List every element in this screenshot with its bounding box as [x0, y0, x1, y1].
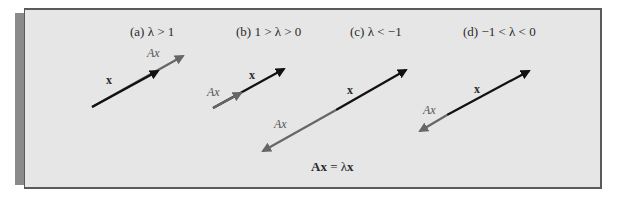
equation-equals-lambda: = λ: [327, 159, 347, 174]
panel-a-ax-label: Ax: [147, 46, 160, 61]
panel-c-x-label: x: [347, 83, 353, 98]
equation-matrix-A: A: [311, 159, 320, 174]
panel-c-title: (c) λ < −1: [350, 24, 402, 40]
panel-a-title: (a) λ > 1: [130, 24, 174, 40]
panel-c-vectors: [263, 70, 406, 151]
panel-d-title: (d) −1 < λ < 0: [463, 24, 536, 40]
x-vector-a: [92, 71, 158, 107]
equation-rhs-x: x: [347, 159, 354, 174]
panel-d-vectors: [420, 71, 529, 131]
x-vector-d: [447, 71, 529, 115]
panel-b-ax-label: Ax: [207, 85, 220, 100]
panel-a-x-label: x: [106, 73, 112, 88]
panel-d-ax-label: Ax: [423, 103, 436, 118]
panel-b-x-label: x: [249, 68, 255, 83]
panel-b-title: (b) 1 > λ > 0: [236, 24, 301, 40]
panel-d-x-label: x: [474, 82, 480, 97]
eigen-equation: Ax = λx: [311, 159, 354, 175]
panel-c-ax-label: Ax: [274, 117, 287, 132]
